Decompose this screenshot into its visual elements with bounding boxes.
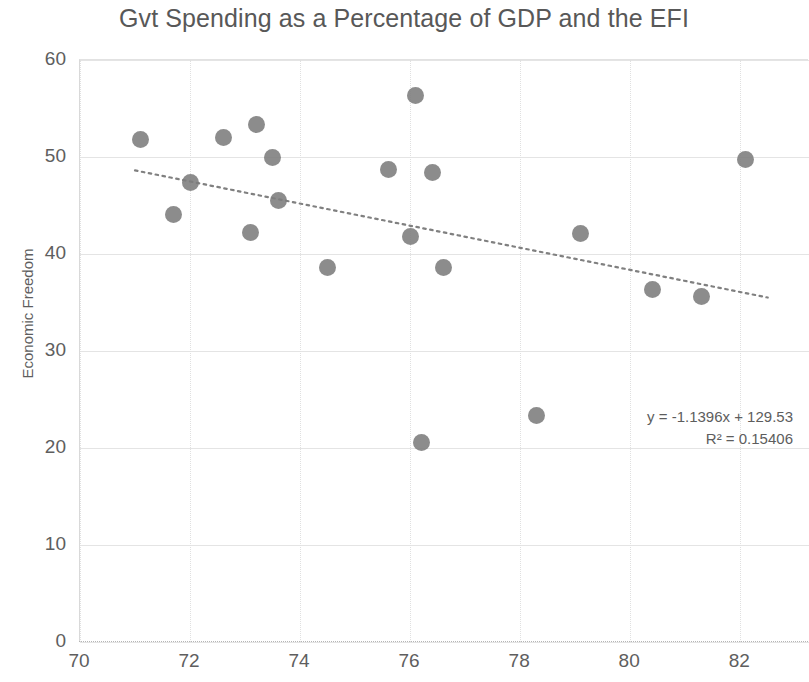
data-point bbox=[132, 131, 149, 148]
data-point bbox=[693, 288, 710, 305]
data-point bbox=[402, 228, 419, 245]
gridline-horizontal bbox=[80, 642, 809, 643]
data-point bbox=[270, 192, 287, 209]
x-axis-tick-label: 76 bbox=[374, 650, 444, 672]
gridline-vertical bbox=[300, 60, 301, 642]
gridline-vertical bbox=[520, 60, 521, 642]
data-point bbox=[644, 281, 661, 298]
data-point bbox=[424, 164, 441, 181]
y-axis-tick-label: 10 bbox=[6, 533, 66, 555]
data-point bbox=[319, 259, 336, 276]
x-axis-tick-label: 78 bbox=[484, 650, 554, 672]
data-point bbox=[413, 434, 430, 451]
y-axis-tick-label: 50 bbox=[6, 145, 66, 167]
gridline-vertical bbox=[410, 60, 411, 642]
x-axis-tick-labels: 70727476788082 bbox=[79, 650, 808, 680]
x-axis-tick-label: 80 bbox=[594, 650, 664, 672]
y-axis-tick-label: 20 bbox=[6, 436, 66, 458]
data-point bbox=[380, 161, 397, 178]
x-axis-tick-label: 70 bbox=[44, 650, 114, 672]
y-axis-tick-label: 30 bbox=[6, 339, 66, 361]
x-axis-line bbox=[79, 641, 808, 642]
data-point bbox=[407, 87, 424, 104]
data-point bbox=[572, 225, 589, 242]
x-axis-tick-label: 72 bbox=[154, 650, 224, 672]
y-axis-tick-label: 0 bbox=[6, 630, 66, 652]
data-point bbox=[182, 174, 199, 191]
data-point bbox=[248, 116, 265, 133]
regression-equation-text: y = -1.1396x + 129.53 bbox=[578, 406, 793, 428]
gridline-vertical bbox=[80, 60, 81, 642]
data-point bbox=[528, 407, 545, 424]
y-axis-tick-label: 40 bbox=[6, 242, 66, 264]
data-point bbox=[264, 149, 281, 166]
data-point bbox=[165, 206, 182, 223]
y-axis-tick-label: 60 bbox=[6, 48, 66, 70]
data-point bbox=[215, 129, 232, 146]
chart-title: Gvt Spending as a Percentage of GDP and … bbox=[0, 4, 808, 33]
x-axis-tick-label: 82 bbox=[704, 650, 774, 672]
trendline-equation-annotation: y = -1.1396x + 129.53 R² = 0.15406 bbox=[578, 406, 793, 450]
gridline-vertical bbox=[740, 60, 741, 642]
y-axis-tick-labels: 0102030405060 bbox=[0, 59, 66, 641]
x-axis-tick-label: 74 bbox=[264, 650, 334, 672]
data-point bbox=[242, 224, 259, 241]
plot-area bbox=[79, 59, 808, 641]
data-point bbox=[737, 151, 754, 168]
data-point bbox=[435, 259, 452, 276]
gridline-vertical bbox=[630, 60, 631, 642]
gridline-vertical bbox=[190, 60, 191, 642]
r-squared-text: R² = 0.15406 bbox=[578, 428, 793, 450]
